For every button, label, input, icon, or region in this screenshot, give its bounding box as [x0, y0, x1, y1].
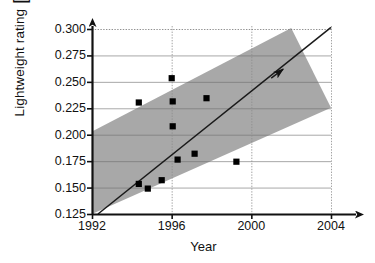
- x-tick-label: 1992: [78, 219, 106, 233]
- chart-figure: Lightweight rating [ Nm/°m2 Kg 103 ] 0.1…: [0, 0, 375, 263]
- data-point-marker: [233, 159, 239, 165]
- data-point-marker: [175, 157, 181, 163]
- data-point-marker: [170, 123, 176, 129]
- data-point-marker: [170, 98, 176, 104]
- data-point-marker: [145, 186, 151, 192]
- x-axis-label: Year: [0, 239, 375, 254]
- data-point-marker: [203, 95, 209, 101]
- data-point-marker: [136, 99, 142, 105]
- x-tick-label: 2004: [317, 219, 345, 233]
- x-tick-label: 1996: [158, 219, 186, 233]
- data-point-marker: [136, 181, 142, 187]
- data-point-marker: [169, 75, 175, 81]
- data-point-marker: [192, 151, 198, 157]
- data-point-marker: [159, 177, 165, 183]
- x-axis-label-text: Year: [190, 239, 216, 254]
- x-tick-label: 2000: [237, 219, 265, 233]
